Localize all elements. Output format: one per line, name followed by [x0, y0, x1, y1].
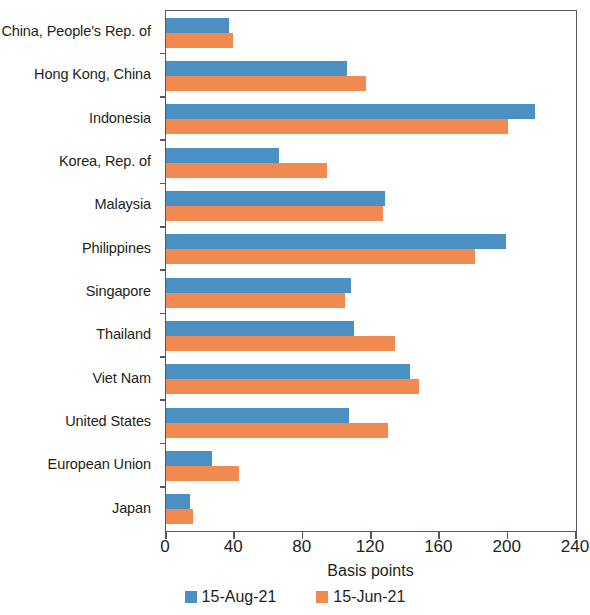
category-label-row: Singapore: [0, 270, 158, 313]
bar-series-jun: [166, 249, 475, 264]
bar-series-jun: [166, 119, 508, 134]
legend-swatch-icon: [316, 591, 328, 603]
category-label: European Union: [48, 457, 151, 472]
bond-spread-bar-chart: China, People's Rep. ofHong Kong, ChinaI…: [0, 0, 590, 615]
category-label: Philippines: [82, 241, 151, 256]
bar-group: [166, 184, 576, 227]
bar-series-jun: [166, 423, 388, 438]
bar-series-jun: [166, 509, 193, 524]
bar-group: [166, 54, 576, 97]
x-axis-tick-label: 0: [160, 537, 169, 557]
bar-group: [166, 401, 576, 444]
chart-legend: 15-Aug-2115-Jun-21: [0, 588, 590, 606]
bar-series-aug: [166, 18, 229, 33]
bar-series-aug: [166, 148, 279, 163]
category-label: Singapore: [86, 284, 151, 299]
bar-group: [166, 271, 576, 314]
bar-group: [166, 444, 576, 487]
category-axis-labels: China, People's Rep. ofHong Kong, ChinaI…: [0, 10, 158, 530]
category-label-row: China, People's Rep. of: [0, 10, 158, 53]
bar-series-aug: [166, 191, 385, 206]
bar-series-jun: [166, 33, 233, 48]
category-label-row: Philippines: [0, 227, 158, 270]
category-label-row: Japan: [0, 487, 158, 530]
bar-series-jun: [166, 206, 383, 221]
category-label-row: United States: [0, 400, 158, 443]
bar-series-jun: [166, 379, 419, 394]
x-axis-tick-label: 120: [356, 537, 384, 557]
bar-series-aug: [166, 364, 410, 379]
bar-group: [166, 488, 576, 531]
x-axis-tick-labels: 04080120160200240: [0, 537, 590, 561]
legend-entry[interactable]: 15-Aug-21: [185, 588, 277, 606]
category-label: Viet Nam: [92, 371, 151, 386]
bar-series-jun: [166, 466, 239, 481]
category-label: Korea, Rep. of: [59, 154, 151, 169]
category-label-row: Malaysia: [0, 183, 158, 226]
bar-group: [166, 228, 576, 271]
bar-group: [166, 314, 576, 357]
bar-series-jun: [166, 293, 345, 308]
category-label: China, People's Rep. of: [1, 24, 151, 39]
category-label: Indonesia: [89, 111, 151, 126]
legend-swatch-icon: [185, 591, 197, 603]
bar-series-aug: [166, 451, 212, 466]
category-label: Thailand: [96, 327, 151, 342]
bar-series-aug: [166, 278, 351, 293]
bar-series-aug: [166, 321, 354, 336]
bar-series-jun: [166, 76, 366, 91]
category-label: Japan: [112, 501, 151, 516]
x-axis-tick-label: 80: [292, 537, 311, 557]
bar-group: [166, 98, 576, 141]
bar-series-jun: [166, 163, 327, 178]
x-axis-tick-label: 40: [224, 537, 243, 557]
x-axis-tick-label: 160: [424, 537, 452, 557]
category-label-row: Thailand: [0, 313, 158, 356]
x-axis-title: Basis points: [165, 562, 576, 580]
bars-layer: [166, 11, 576, 531]
bar-series-aug: [166, 234, 506, 249]
category-label: United States: [65, 414, 151, 429]
category-label-row: Indonesia: [0, 97, 158, 140]
bar-group: [166, 11, 576, 54]
bar-series-jun: [166, 336, 395, 351]
bar-series-aug: [166, 104, 535, 119]
category-label-row: Korea, Rep. of: [0, 140, 158, 183]
bar-series-aug: [166, 494, 190, 509]
category-label: Malaysia: [95, 197, 151, 212]
legend-entry[interactable]: 15-Jun-21: [316, 588, 405, 606]
x-axis-tick-label: 200: [492, 537, 520, 557]
plot-area: [165, 10, 577, 532]
legend-label: 15-Jun-21: [333, 588, 405, 606]
category-label: Hong Kong, China: [34, 67, 151, 82]
x-axis-tick-label: 240: [561, 537, 589, 557]
bar-group: [166, 358, 576, 401]
bar-series-aug: [166, 408, 349, 423]
bar-series-aug: [166, 61, 347, 76]
bar-group: [166, 141, 576, 184]
category-label-row: European Union: [0, 443, 158, 486]
legend-label: 15-Aug-21: [202, 588, 277, 606]
category-label-row: Hong Kong, China: [0, 53, 158, 96]
category-label-row: Viet Nam: [0, 357, 158, 400]
